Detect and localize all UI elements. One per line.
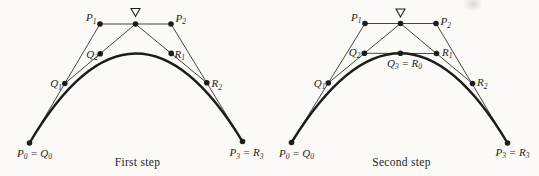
point-label-r2: R2	[476, 76, 488, 91]
point-label-p0q0: P0 = Q0	[278, 147, 314, 162]
point-dot-p3	[240, 139, 246, 145]
point-dot-m	[133, 21, 139, 27]
bezier-subdivision-figure: P1P2Q2R1Q1R2P0 = Q0P3 = R3P1P2Q2R1Q3 = R…	[0, 0, 539, 176]
caption-second-step: Second step	[372, 156, 431, 168]
point-dot-p2	[433, 21, 439, 27]
point-dot-r1	[434, 51, 440, 57]
point-dot-q3	[398, 51, 404, 57]
point-dot-q1	[62, 81, 68, 87]
point-label-q2: Q2	[349, 46, 361, 61]
point-dot-p1	[97, 21, 103, 27]
caption-first-step: First step	[115, 156, 161, 168]
point-label-r2: R2	[211, 77, 223, 92]
point-label-p3r3: P3 = R3	[495, 146, 530, 161]
point-label-p1: P1	[350, 11, 361, 26]
figure-canvas: P1P2Q2R1Q1R2P0 = Q0P3 = R3P1P2Q2R1Q3 = R…	[0, 0, 539, 176]
point-label-q1: Q1	[50, 77, 62, 92]
point-label-p1: P1	[85, 11, 96, 26]
point-label-p3r3: P3 = R3	[229, 146, 264, 161]
point-label-q1: Q1	[314, 77, 326, 92]
point-label-p2: P2	[175, 12, 187, 27]
point-dot-p0	[27, 140, 33, 146]
point-dot-p0	[289, 140, 295, 146]
point-dot-q1	[326, 80, 332, 86]
point-label-p0q0: P0 = Q0	[16, 147, 52, 162]
point-label-q3r0: Q3 = R0	[387, 57, 422, 72]
point-label-p2: P2	[440, 15, 452, 30]
point-dot-m	[398, 21, 404, 27]
point-dot-p1	[362, 21, 368, 27]
point-dot-r2	[204, 80, 210, 86]
nabla-marker	[396, 9, 405, 17]
point-dot-r1	[168, 51, 174, 57]
first-step-diagram: P1P2Q2R1Q1R2P0 = Q0P3 = R3	[16, 9, 264, 162]
point-dot-q2	[362, 51, 368, 57]
point-dot-r2	[470, 81, 476, 87]
second-step-diagram: P1P2Q2R1Q3 = R0Q1R2P0 = Q0P3 = R3	[278, 9, 530, 161]
bezier-curve	[30, 54, 243, 143]
nabla-marker	[131, 9, 140, 17]
point-dot-p2	[168, 21, 174, 27]
point-dot-q2	[97, 51, 103, 57]
